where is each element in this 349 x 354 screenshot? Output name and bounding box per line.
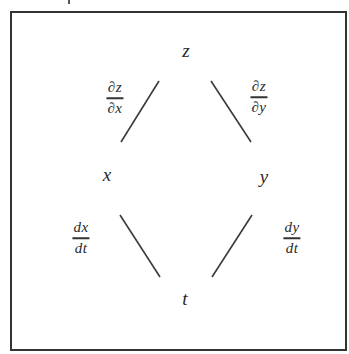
node-y: y [260,167,268,186]
label-dy-dt-numerator: dy [283,220,300,237]
edge-y-t [212,215,252,277]
label-dz-dx: ∂z ∂x [106,80,123,116]
label-dz-dx-numerator: ∂z [107,80,123,97]
node-z: z [182,41,189,60]
label-dx-dt-denominator: dt [74,239,89,256]
label-dz-dy: ∂z ∂y [250,79,267,115]
edge-x-t [120,215,160,277]
node-x: x [103,165,111,184]
tree-edges [0,0,349,354]
label-dx-dt-numerator: dx [72,220,89,237]
label-dz-dy-denominator: ∂y [250,98,267,115]
node-t: t [182,289,187,308]
label-dz-dx-denominator: ∂x [106,99,123,116]
edge-z-x [121,81,159,142]
label-dz-dy-numerator: ∂z [251,79,267,96]
edge-z-y [211,81,251,142]
label-dy-dt: dy dt [283,220,300,256]
label-dx-dt: dx dt [72,220,89,256]
label-dy-dt-denominator: dt [285,239,300,256]
